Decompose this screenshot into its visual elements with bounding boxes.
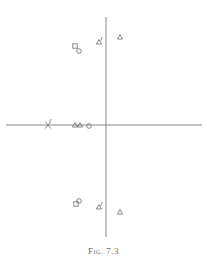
cross-marker-icon [45,119,51,129]
triangle-marker-icon [117,210,122,214]
circle-marker-icon [77,49,82,54]
markers-layer [45,35,122,214]
pole-zero-figure [0,0,207,262]
triangle-with-tick-marker-icon [96,202,102,209]
circle-marker-icon [77,199,82,204]
triangle-with-tick-marker-icon [96,37,102,44]
triangle-marker-icon [117,35,122,39]
circle-marker-icon [87,124,92,129]
square-marker-icon [73,44,77,48]
figure-caption: Fig. 7.3 [0,246,207,256]
